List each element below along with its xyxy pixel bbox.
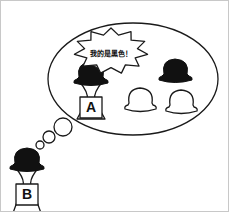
speech-burst-text: 我的是黑色！ — [90, 49, 132, 58]
thought-connector-bubble-small — [36, 141, 44, 149]
thought-connector-bubble-large — [54, 118, 72, 136]
figure-b-hat — [10, 148, 44, 172]
figure-b-group: B — [10, 148, 44, 212]
illustration-canvas: A 我的是黑色！ B — [0, 0, 229, 212]
figure-a-label: A — [86, 99, 96, 115]
figure-b-label: B — [22, 186, 32, 202]
scene-svg: A 我的是黑色！ B — [1, 1, 229, 212]
thought-connector-bubble-medium — [43, 131, 55, 143]
